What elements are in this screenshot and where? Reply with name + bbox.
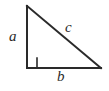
label-leg-b: b: [57, 69, 65, 84]
triangle-graphic: [0, 0, 109, 91]
label-leg-a: a: [9, 29, 17, 44]
right-angle-marker-icon: [27, 58, 37, 68]
right-triangle-figure: a c b: [0, 0, 109, 91]
label-hypotenuse-c: c: [65, 20, 72, 35]
triangle-hypotenuse-line: [27, 6, 101, 68]
